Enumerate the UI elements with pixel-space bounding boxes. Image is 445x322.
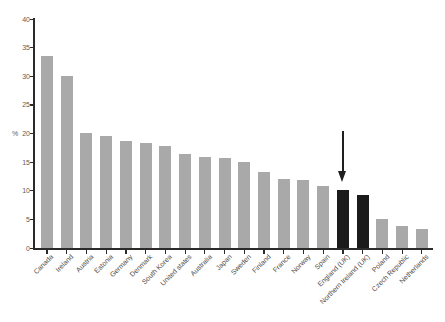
x-tick (323, 250, 324, 254)
x-tick-label: Finland (251, 253, 273, 275)
x-tick (125, 250, 126, 254)
arrow-head-icon (338, 171, 346, 182)
y-tick-label: 35 (8, 44, 30, 51)
x-tick (86, 250, 87, 254)
bar (159, 146, 171, 248)
bar (317, 186, 329, 248)
bar (179, 154, 191, 248)
bar (41, 56, 53, 248)
x-tick-label: Sweden (229, 253, 253, 277)
x-tick (66, 250, 67, 254)
x-tick-label: Austria (74, 253, 95, 274)
x-tick (106, 250, 107, 254)
x-tick-label: Norway (290, 253, 312, 275)
x-tick-label: Ireland (55, 253, 76, 274)
bar (258, 172, 270, 248)
bar (278, 179, 290, 248)
bar (297, 180, 309, 248)
bar (219, 158, 231, 248)
y-tick-label: 25 (8, 101, 30, 108)
bar (238, 162, 250, 248)
bar (416, 229, 428, 248)
x-tick (145, 250, 146, 254)
bar (61, 76, 73, 248)
bar (140, 143, 152, 248)
y-tick (30, 47, 34, 48)
y-tick (30, 219, 34, 220)
y-tick (30, 76, 34, 77)
y-tick (30, 19, 34, 20)
y-tick-label: 30 (8, 73, 30, 80)
x-tick (421, 250, 422, 254)
x-tick (244, 250, 245, 254)
x-axis (33, 248, 433, 250)
x-tick-label: Canada (33, 253, 56, 276)
bar (80, 133, 92, 248)
y-tick-label: 20 (8, 130, 30, 137)
y-tick-label: 10 (8, 187, 30, 194)
arrow-shaft (342, 131, 344, 173)
y-tick (30, 104, 34, 105)
bar-highlighted (357, 195, 369, 248)
y-tick (30, 133, 34, 134)
x-tick (402, 250, 403, 254)
x-tick (382, 250, 383, 254)
y-tick (30, 248, 34, 249)
bar (199, 157, 211, 248)
bar (120, 141, 132, 248)
x-tick (342, 250, 343, 254)
y-tick-label: 40 (8, 16, 30, 23)
x-tick (303, 250, 304, 254)
bar-chart-figure: % 0510152025303540 CanadaIrelandAustriaE… (0, 0, 445, 322)
bar (376, 219, 388, 248)
x-tick (224, 250, 225, 254)
x-tick (46, 250, 47, 254)
x-tick (165, 250, 166, 254)
bar (100, 136, 112, 248)
y-tick-label: 5 (8, 216, 30, 223)
y-tick-label: 0 (8, 245, 30, 252)
x-tick (204, 250, 205, 254)
x-tick (263, 250, 264, 254)
x-tick (362, 250, 363, 254)
bar-highlighted (337, 190, 349, 248)
y-tick-label: 15 (8, 159, 30, 166)
bar (396, 226, 408, 248)
y-tick (30, 190, 34, 191)
x-tick-label: France (271, 253, 292, 274)
y-tick (30, 162, 34, 163)
x-tick (185, 250, 186, 254)
x-tick (283, 250, 284, 254)
